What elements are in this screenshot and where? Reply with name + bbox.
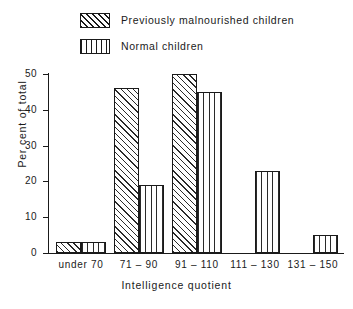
- bar: [114, 88, 139, 253]
- x-axis-tick-label: under 70: [49, 259, 113, 270]
- bar-chart: Previously malnourished children Normal …: [0, 0, 353, 309]
- x-axis-tick-label: 91 – 110: [165, 259, 229, 270]
- x-axis-tick-label: 111 – 130: [223, 259, 287, 270]
- bar: [197, 92, 222, 253]
- bar: [255, 171, 280, 253]
- bar: [56, 242, 81, 253]
- bar: [172, 74, 197, 253]
- x-axis-tick-label: 71 – 90: [107, 259, 171, 270]
- bar: [313, 235, 338, 253]
- x-axis-tick-label: 131 – 150: [281, 259, 345, 270]
- x-axis-tick-labels: under 7071 – 9091 – 110111 – 130131 – 15…: [0, 259, 353, 275]
- bar: [81, 242, 106, 253]
- x-axis-title: Intelligence quotient: [0, 279, 353, 291]
- bar: [139, 185, 164, 253]
